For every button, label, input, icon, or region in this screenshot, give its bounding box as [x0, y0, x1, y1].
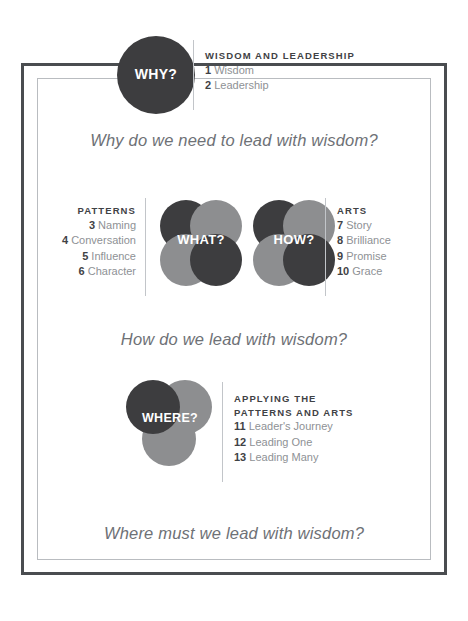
- item-label: Brilliance: [346, 234, 391, 246]
- where-divider: [222, 382, 223, 482]
- item-number: 7: [337, 219, 343, 231]
- item-label: Leader's Journey: [249, 420, 333, 432]
- item-label: Influence: [91, 250, 136, 262]
- item-label: Grace: [352, 265, 382, 277]
- arts-heading: ARTS: [337, 204, 391, 218]
- item-number: 3: [89, 219, 95, 231]
- item-number: 6: [79, 265, 85, 277]
- what-icon-label: WHAT?: [160, 232, 242, 247]
- where-text-block: APPLYING THE PATTERNS AND ARTS 11 Leader…: [234, 392, 354, 466]
- how-icon-label: HOW?: [253, 232, 335, 247]
- item-number: 13: [234, 451, 246, 463]
- patterns-divider: [145, 198, 146, 296]
- item-label: Story: [346, 219, 372, 231]
- list-item: 8 Brilliance: [337, 233, 391, 249]
- list-item: 3 Naming: [62, 218, 136, 234]
- list-item: 1 Wisdom: [205, 63, 355, 79]
- item-number: 11: [234, 420, 246, 432]
- why-heading: WISDOM AND LEADERSHIP: [205, 49, 355, 63]
- list-item: 6 Character: [62, 264, 136, 280]
- where-heading-line2: PATTERNS AND ARTS: [234, 406, 354, 420]
- patterns-text-block: PATTERNS 3 Naming 4 Conversation 5 Influ…: [62, 204, 136, 280]
- where-circle-top-left: [126, 380, 180, 434]
- item-number: 10: [337, 265, 349, 277]
- arts-text-block: ARTS 7 Story 8 Brilliance 9 Promise 10 G…: [337, 204, 391, 280]
- list-item: 13 Leading Many: [234, 450, 354, 466]
- item-label: Promise: [346, 250, 386, 262]
- patterns-heading: PATTERNS: [62, 204, 136, 218]
- item-label: Leading One: [249, 436, 312, 448]
- item-number: 1: [205, 64, 211, 76]
- why-icon-label: WHY?: [117, 66, 195, 82]
- diagram-inner-frame: [37, 78, 431, 560]
- item-number: 9: [337, 250, 343, 262]
- item-label: Conversation: [71, 234, 136, 246]
- item-number: 5: [82, 250, 88, 262]
- question-why: Why do we need to lead with wisdom?: [0, 131, 468, 150]
- item-label: Leading Many: [249, 451, 318, 463]
- item-number: 4: [62, 234, 68, 246]
- how-icon: HOW?: [253, 200, 335, 286]
- item-number: 8: [337, 234, 343, 246]
- where-heading-line1: APPLYING THE: [234, 392, 354, 406]
- item-number: 2: [205, 79, 211, 91]
- list-item: 9 Promise: [337, 249, 391, 265]
- item-label: Character: [88, 265, 136, 277]
- list-item: 2 Leadership: [205, 78, 355, 94]
- item-number: 12: [234, 436, 246, 448]
- item-label: Leadership: [214, 79, 268, 91]
- question-where: Where must we lead with wisdom?: [0, 524, 468, 543]
- what-icon: WHAT?: [160, 200, 242, 286]
- list-item: 4 Conversation: [62, 233, 136, 249]
- list-item: 7 Story: [337, 218, 391, 234]
- why-icon: WHY?: [117, 36, 195, 114]
- why-text-block: WISDOM AND LEADERSHIP 1 Wisdom 2 Leaders…: [205, 49, 355, 94]
- where-icon-label: WHERE?: [126, 411, 214, 425]
- item-label: Wisdom: [214, 64, 254, 76]
- where-icon: WHERE?: [126, 380, 214, 468]
- list-item: 5 Influence: [62, 249, 136, 265]
- question-how: How do we lead with wisdom?: [0, 330, 468, 349]
- item-label: Naming: [98, 219, 136, 231]
- arts-divider: [325, 198, 326, 296]
- list-item: 11 Leader's Journey: [234, 419, 354, 435]
- list-item: 12 Leading One: [234, 435, 354, 451]
- list-item: 10 Grace: [337, 264, 391, 280]
